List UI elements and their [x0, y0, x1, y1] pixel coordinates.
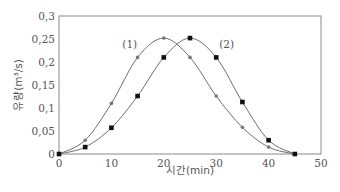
y-tick-label: 0	[48, 148, 55, 160]
series-annotations: (1)(2)	[122, 38, 234, 50]
series-annotation: (2)	[219, 38, 234, 50]
circle-marker-icon	[188, 56, 192, 60]
square-marker-icon	[214, 55, 219, 60]
square-marker-icon	[188, 36, 193, 41]
series-line	[59, 38, 295, 154]
series-1	[57, 36, 296, 156]
line-chart: 00,050,10,150,20,250,3 01020304050 (1)(2…	[0, 0, 340, 192]
square-marker-icon	[83, 145, 88, 150]
square-marker-icon	[109, 125, 114, 130]
y-axis-label: 유량(m³/s)	[12, 59, 24, 111]
series-group	[57, 36, 297, 157]
x-tick-label: 50	[314, 157, 327, 169]
x-tick-label: 10	[105, 157, 118, 169]
y-tick-label: 0,3	[38, 10, 55, 22]
square-marker-icon	[135, 94, 140, 99]
circle-marker-icon	[110, 102, 114, 106]
x-tick-label: 40	[262, 157, 275, 169]
y-tick-label: 0,2	[38, 56, 55, 68]
x-tick-label: 0	[56, 157, 63, 169]
square-marker-icon	[266, 138, 271, 143]
circle-marker-icon	[241, 126, 245, 130]
series-line	[59, 38, 295, 154]
square-marker-icon	[293, 152, 298, 157]
y-axis-ticks: 00,050,10,150,20,250,3	[32, 10, 55, 160]
square-marker-icon	[240, 100, 245, 105]
circle-marker-icon	[214, 94, 218, 98]
square-marker-icon	[162, 55, 167, 60]
square-marker-icon	[57, 152, 62, 157]
circle-marker-icon	[136, 56, 140, 60]
y-tick-label: 0,05	[32, 125, 55, 137]
circle-marker-icon	[267, 145, 271, 149]
series-annotation: (1)	[122, 38, 137, 50]
x-axis-label: 시간(min)	[166, 164, 214, 176]
y-tick-label: 0,15	[32, 79, 55, 91]
y-tick-label: 0,1	[38, 102, 55, 114]
circle-marker-icon	[83, 138, 87, 142]
y-tick-label: 0,25	[32, 33, 55, 45]
series-2	[57, 36, 297, 157]
circle-marker-icon	[162, 36, 166, 40]
